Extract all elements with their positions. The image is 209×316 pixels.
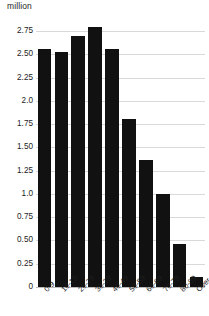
y-axis-tick-label: 0.50 [0, 236, 33, 244]
bar [71, 36, 85, 287]
y-axis-tick-label: 0.25 [0, 260, 33, 268]
bars [36, 17, 205, 287]
bar [105, 49, 119, 287]
bar [122, 119, 136, 287]
bar [38, 49, 52, 287]
plot-area: 2.752.502.252.01.751.501.251.00.750.500.… [36, 17, 205, 287]
bar [139, 160, 153, 287]
y-axis-tick-label: 0 [0, 283, 33, 291]
y-axis-tick-label: 1.75 [0, 120, 33, 128]
y-axis-tick-label: 1.25 [0, 167, 33, 175]
y-axis-tick-label: 2.0 [0, 97, 33, 105]
y-axis-tick-label: 1.50 [0, 143, 33, 151]
y-axis-tick-label: 2.50 [0, 50, 33, 58]
y-axis-tick-label: 2.25 [0, 73, 33, 81]
bar-chart: million 2.752.502.252.01.751.501.251.00.… [0, 0, 209, 316]
y-axis-tick-label: 2.75 [0, 27, 33, 35]
x-axis: 0-910-1920-2930-3940-4950-5960-6970-7980… [36, 288, 205, 316]
unit-label: million [7, 1, 32, 11]
bar [88, 27, 102, 287]
y-axis-tick-label: 0.75 [0, 213, 33, 221]
bar [55, 52, 69, 287]
y-axis-tick-label: 1.0 [0, 190, 33, 198]
